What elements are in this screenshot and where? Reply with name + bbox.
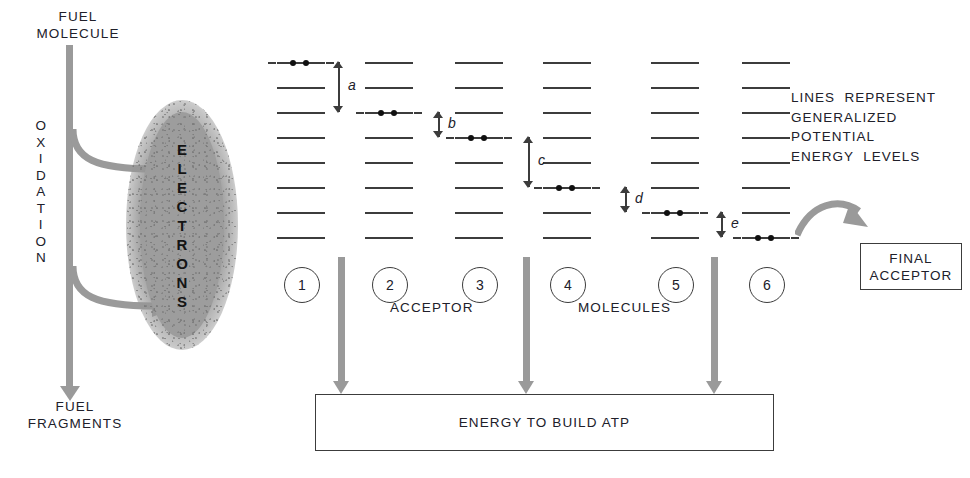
acceptor-number-2: 2 <box>372 267 408 303</box>
atp-arrow-stem <box>523 257 530 381</box>
energy-level-line <box>365 137 413 139</box>
energy-level-line <box>543 237 591 239</box>
electrons-blob-label: ELECTRONS <box>126 100 238 350</box>
electrons-letter: N <box>177 273 188 292</box>
oxidation-letter: O <box>30 234 52 251</box>
gap-marker-bar <box>528 137 530 187</box>
oxidation-letter: I <box>30 217 52 234</box>
final-acceptor-box: FINAL ACCEPTOR <box>860 243 962 290</box>
acceptor-number-3: 3 <box>462 267 498 303</box>
oxidation-letter: N <box>30 250 52 267</box>
electrons-letter: L <box>177 159 186 178</box>
gap-marker-label-c: c <box>538 152 545 168</box>
energy-level-line <box>742 237 790 239</box>
gap-marker-arrowhead-down <box>716 231 726 238</box>
energy-level-line <box>277 87 325 89</box>
energy-level-line <box>455 87 503 89</box>
legend-line-1: LINES REPRESENT <box>791 88 936 108</box>
electrons-letter: O <box>176 254 188 273</box>
gap-marker-arrowhead-down <box>333 106 343 113</box>
molecules-caption: MOLECULES <box>578 299 671 316</box>
electron-dot <box>755 235 761 241</box>
acceptor-caption: ACCEPTOR <box>390 299 474 316</box>
energy-level-line <box>455 137 503 139</box>
final-acceptor-line-1: FINAL <box>889 250 932 267</box>
gap-marker-label-b: b <box>448 115 456 131</box>
energy-level-line <box>742 212 790 214</box>
atp-energy-arrow-3 <box>706 257 722 394</box>
electron-dot <box>468 135 474 141</box>
energy-level-line <box>365 62 413 64</box>
oxidation-letter: X <box>30 135 52 152</box>
energy-level-line <box>277 112 325 114</box>
gap-marker-arrowhead-down <box>433 131 443 138</box>
fuel-molecule-label: FUEL MOLECULE <box>18 8 138 42</box>
electron-dot <box>481 135 487 141</box>
energy-level-line <box>543 62 591 64</box>
electrons-letter: R <box>177 235 188 254</box>
electrons-letter: T <box>177 216 186 235</box>
energy-level-line <box>651 112 699 114</box>
electron-dot <box>569 185 575 191</box>
energy-level-line <box>277 137 325 139</box>
energy-level-line <box>651 212 699 214</box>
gap-marker-arrowhead-down <box>620 206 630 213</box>
energy-level-line <box>543 112 591 114</box>
electron-dot <box>664 210 670 216</box>
atp-box: ENERGY TO BUILD ATP <box>315 394 774 451</box>
atp-box-label: ENERGY TO BUILD ATP <box>459 415 630 430</box>
oxidation-shaft <box>66 45 73 390</box>
energy-level-line <box>455 187 503 189</box>
electron-line-tick <box>642 212 650 214</box>
energy-level-line <box>543 162 591 164</box>
energy-level-line <box>651 187 699 189</box>
energy-gap-marker-d: d <box>620 187 632 212</box>
electron-line-tick <box>592 187 600 189</box>
atp-arrow-head <box>333 381 349 394</box>
acceptor-number-1: 1 <box>284 267 320 303</box>
energy-gap-marker-b: b <box>433 112 445 137</box>
gap-marker-label-d: d <box>635 190 643 206</box>
energy-level-line <box>742 162 790 164</box>
electrons-letter: E <box>177 140 187 159</box>
energy-level-line <box>651 87 699 89</box>
electrons-letter: S <box>177 292 187 311</box>
atp-energy-arrow-1 <box>333 257 349 394</box>
electron-line-tick <box>733 237 741 239</box>
energy-level-line <box>742 87 790 89</box>
energy-level-line <box>651 162 699 164</box>
acceptor-number-5: 5 <box>658 267 694 303</box>
energy-gap-marker-a: a <box>333 62 345 112</box>
energy-level-line <box>455 162 503 164</box>
atp-arrow-stem <box>338 257 345 381</box>
energy-level-line <box>365 237 413 239</box>
oxidation-letter: D <box>30 168 52 185</box>
electron-dot <box>391 110 397 116</box>
energy-level-line <box>277 187 325 189</box>
gap-marker-arrowhead-up <box>433 111 443 118</box>
electron-dot <box>378 110 384 116</box>
oxidation-letter: O <box>30 118 52 135</box>
fuel-fragments-label: FUEL FRAGMENTS <box>10 398 140 432</box>
energy-gap-marker-c: c <box>523 137 535 187</box>
energy-level-line <box>277 162 325 164</box>
electron-line-tick <box>268 62 276 64</box>
legend-line-2: GENERALIZED <box>791 108 936 128</box>
energy-level-line <box>742 187 790 189</box>
energy-level-line <box>651 137 699 139</box>
energy-level-line <box>277 212 325 214</box>
gap-marker-arrowhead-up <box>523 136 533 143</box>
energy-level-line <box>365 87 413 89</box>
oxidation-letter: A <box>30 184 52 201</box>
energy-level-line <box>543 212 591 214</box>
acceptor-number-6: 6 <box>749 267 785 303</box>
energy-level-line <box>455 112 503 114</box>
energy-level-line <box>742 112 790 114</box>
energy-level-line <box>365 162 413 164</box>
energy-level-line <box>742 62 790 64</box>
legend-line-3: POTENTIAL <box>791 127 936 147</box>
electron-line-tick <box>356 112 364 114</box>
energy-level-line <box>543 187 591 189</box>
electron-dot <box>768 235 774 241</box>
gap-marker-bar <box>338 62 340 112</box>
